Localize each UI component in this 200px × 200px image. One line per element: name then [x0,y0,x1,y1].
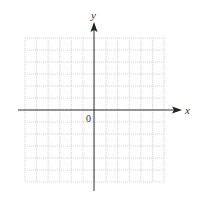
origin-label: 0 [86,113,91,124]
x-axis-label: x [184,104,190,116]
y-axis-label: y [90,9,96,21]
coordinate-plane: x y 0 [0,0,200,200]
